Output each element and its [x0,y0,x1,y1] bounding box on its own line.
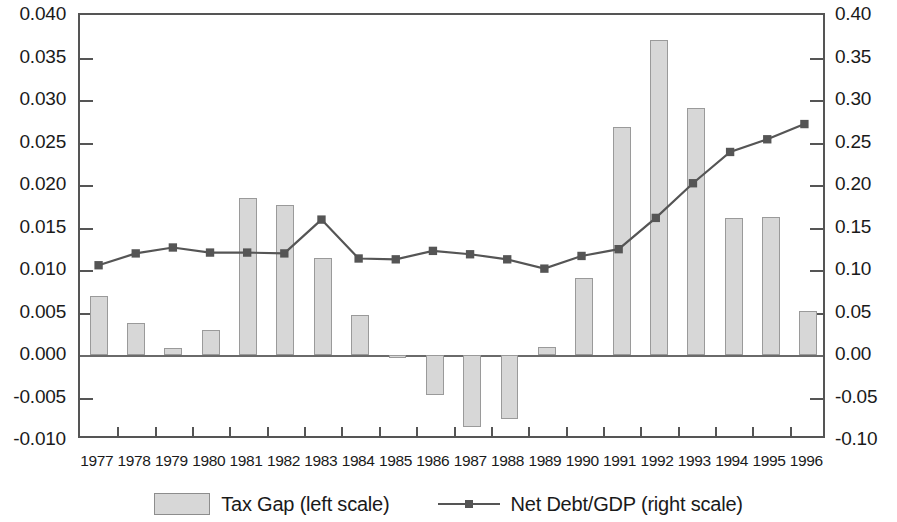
line-marker-1981 [243,248,251,256]
line-marker-1980 [206,248,214,256]
line-marker-1990 [577,252,585,260]
chart-legend: Tax Gap (left scale) Net Debt/GDP (right… [0,487,897,520]
line-marker-1996 [800,120,808,128]
left-axis-tick-label: 0.030 [19,89,66,108]
left-axis-tick-label: 0.020 [19,174,66,193]
line-marker-1985 [392,255,400,263]
line-marker-1987 [466,250,474,258]
chart-figure: 0.0400.0350.0300.0250.0200.0150.0100.005… [0,0,897,522]
line-marker-1986 [429,247,437,255]
x-label-1984: 1984 [342,452,375,470]
line-marker-1989 [540,264,548,272]
x-label-1991: 1991 [603,452,636,470]
right-axis-tick-label: 0.10 [835,259,871,278]
x-label-1988: 1988 [491,452,524,470]
x-label-1980: 1980 [192,452,225,470]
line-marker-1988 [503,255,511,263]
x-label-1995: 1995 [753,452,786,470]
x-label-1996: 1996 [790,452,823,470]
right-axis-tick-label: 0.25 [835,131,871,150]
right-axis-tick-label: 0.15 [835,216,871,235]
line-marker-1991 [614,245,622,253]
legend-label-tax-gap: Tax Gap (left scale) [221,493,389,515]
right-axis-tick-label: -0.05 [835,386,877,405]
line-marker-1995 [763,135,771,143]
right-axis-tick-label: -0.10 [835,429,877,448]
left-axis-tick-label: 0.005 [19,301,66,320]
line-marker-1982 [280,249,288,257]
left-axis-tick-label: 0.010 [19,259,66,278]
x-label-1994: 1994 [715,452,748,470]
right-axis-tick-label: 0.35 [835,46,871,65]
plot-inner [80,15,823,436]
line-marker-1978 [132,249,140,257]
plot-area [78,13,825,438]
left-axis-labels: 0.0400.0350.0300.0250.0200.0150.0100.005… [0,0,72,460]
x-label-1981: 1981 [230,452,263,470]
right-axis-tick-label: 0.30 [835,89,871,108]
x-label-1987: 1987 [454,452,487,470]
x-label-1990: 1990 [566,452,599,470]
left-axis-tick-label: -0.010 [13,429,66,448]
x-label-1992: 1992 [640,452,673,470]
line-marker-1993 [689,179,697,187]
x-label-1989: 1989 [528,452,561,470]
bar-swatch-icon [154,493,210,515]
line-swatch-icon [438,497,500,511]
legend-entry-tax-gap: Tax Gap (left scale) [154,493,389,515]
left-axis-tick-label: 0.025 [19,131,66,150]
legend-entry-net-debt-gdp: Net Debt/GDP (right scale) [438,493,743,515]
right-axis-tick-label: 0.20 [835,174,871,193]
left-axis-tick-label: 0.035 [19,46,66,65]
x-label-1983: 1983 [304,452,337,470]
x-label-1985: 1985 [379,452,412,470]
x-label-1986: 1986 [416,452,449,470]
line-marker-1983 [317,215,325,223]
line-marker-1979 [169,243,177,251]
right-axis-labels: 0.400.350.300.250.200.150.100.050.00-0.0… [825,0,897,460]
right-axis-tick-label: 0.00 [835,344,871,363]
legend-label-net-debt-gdp: Net Debt/GDP (right scale) [511,493,743,515]
x-label-1982: 1982 [267,452,300,470]
right-axis-tick-label: 0.05 [835,301,871,320]
left-axis-tick-label: 0.000 [19,344,66,363]
right-axis-tick-label: 0.40 [835,4,871,23]
x-axis-category-labels: 1977197819791980198119821983198419851986… [78,452,825,478]
line-marker-1984 [354,254,362,262]
left-axis-tick-label: 0.040 [19,4,66,23]
line-series-net-debt-gdp [80,15,823,438]
x-label-1993: 1993 [678,452,711,470]
left-axis-tick-label: -0.005 [13,386,66,405]
line-marker-1994 [726,148,734,156]
line-marker-1992 [652,214,660,222]
line-path-net-debt-gdp [99,124,805,269]
x-label-1978: 1978 [118,452,151,470]
x-label-1977: 1977 [80,452,113,470]
left-axis-tick-label: 0.015 [19,216,66,235]
x-label-1979: 1979 [155,452,188,470]
line-marker-1977 [94,261,102,269]
